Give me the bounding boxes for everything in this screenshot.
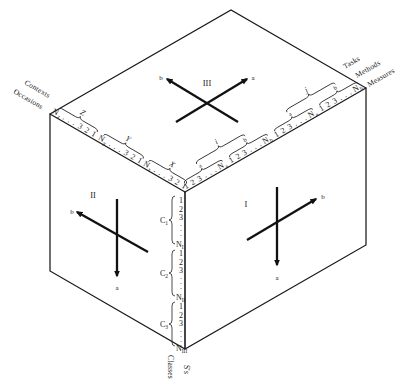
axis-label-subjects: S's [182, 365, 191, 374]
outer-brace-label-i: i [213, 137, 219, 146]
arrow-b-icon [77, 212, 148, 252]
arrow-b-icon [247, 199, 316, 240]
brace-label-c1: C1 [160, 216, 168, 226]
front-edge-axis-labels: Classes S's [166, 355, 191, 379]
brace-label-c2: C2 [160, 269, 168, 279]
axis-a-label: a [251, 74, 255, 82]
axis-a-label: a [115, 284, 119, 292]
right-edge-axis-labels: Tasks Methods Measures [342, 54, 397, 89]
scale-group-z: Nz. . . 3 2 1 [50, 107, 97, 140]
scale-group-a1: 1 2 3 . . .Na [182, 159, 229, 192]
axis-b-label: b [159, 74, 163, 82]
scale-group-x: Nx. . . 3 2 1 [141, 159, 188, 192]
data-box-cube-diagram: III b a I a b II a b Contexts Occasions … [0, 0, 413, 391]
right-edge-scale: 1 2 3 . . .Na 1 2 3 . . .Nb 1 2 3 . . .N… [171, 61, 365, 192]
front-edge-scale: 1 2 3 . . . NI C1 1 2 3 . . . NII C2 1 2… [160, 196, 187, 354]
brace-icon [169, 196, 175, 244]
scale-dot: . [180, 335, 182, 344]
scale-dot: . [180, 229, 182, 238]
brace-icon [169, 302, 175, 346]
axis-label-classes: Classes [166, 355, 175, 379]
scale-group-a2: 1 2 3 . . .Na [272, 107, 319, 140]
arrow-a-icon [176, 79, 247, 122]
face-right-cross: I a b [245, 187, 326, 282]
axis-b-label: b [321, 193, 325, 201]
brace-label-x: X [167, 159, 178, 170]
left-edge-axis-labels: Contexts Occasions [12, 78, 52, 111]
face-left-cross: II a b [70, 190, 148, 292]
face-label: I [245, 199, 248, 209]
scale-dot: . [180, 282, 182, 291]
scale-group-c3: 1 2 3 . . . NIII C3 [160, 302, 187, 354]
axis-b-label: b [70, 208, 74, 216]
face-label: II [90, 190, 96, 200]
cube-outline [50, 10, 366, 349]
left-edge-scale: Nz. . . 3 2 1 Ny. . . 3 2 1 Nx. . . 3 2 … [50, 95, 194, 191]
brace-label-b: b [242, 136, 248, 143]
brace-label-z: Z [78, 108, 87, 118]
face-top-cross: III b a [159, 74, 255, 122]
brace-label-c3: C3 [160, 320, 168, 330]
scale-group-c2: 1 2 3 . . . NII C2 [160, 249, 186, 303]
outer-brace-label-j: j [302, 85, 310, 95]
axis-a-label: a [275, 274, 279, 282]
brace-label-b: b [332, 85, 338, 92]
face-label: III [203, 78, 212, 88]
brace-label-a: a [197, 162, 203, 169]
scale-group-b1: 1 2 3 . . .Nb [227, 133, 274, 166]
scale-group-c1: 1 2 3 . . . NI C1 [160, 196, 184, 250]
scale-group-b2: 1 2 3 . . .Nb [318, 81, 365, 114]
brace-icon [169, 250, 175, 296]
brace-label-a: a [287, 110, 293, 117]
scale-group-y: Ny. . . 3 2 1 [96, 133, 143, 166]
